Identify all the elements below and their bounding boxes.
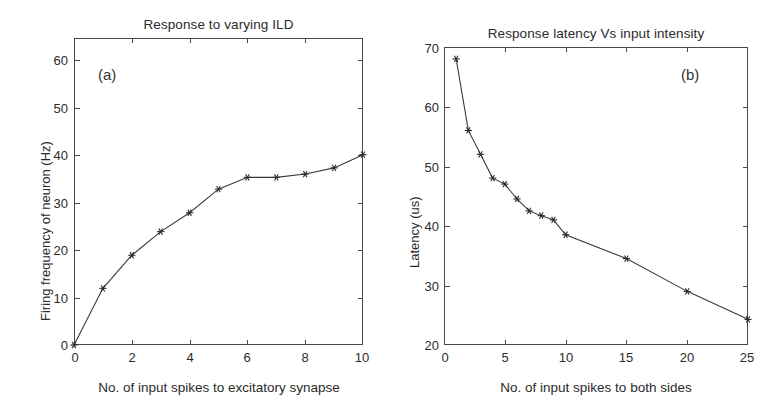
data-point-marker (477, 151, 484, 157)
panel-b-ytick-20: 20 (411, 338, 439, 353)
panel-b-data-series (444, 47, 748, 345)
panel-a: Response to varying ILD (a) Firing frequ… (0, 0, 400, 412)
panel-a-ytick-10: 10 (40, 291, 68, 306)
panel-a-ytick-60: 60 (40, 53, 68, 68)
data-point-marker (744, 316, 751, 322)
data-point-marker (489, 175, 496, 181)
panel-a-xtick-2: 2 (128, 350, 135, 365)
data-point-marker (70, 342, 77, 348)
data-point-marker (501, 181, 508, 187)
panel-b: Response latency Vs input intensity (b) … (381, 0, 781, 412)
data-point-marker (244, 174, 251, 180)
panel-b-ytick-70: 70 (411, 41, 439, 56)
panel-a-title: Response to varying ILD (74, 17, 363, 32)
data-point-marker (550, 217, 557, 223)
panel-b-ytick-50: 50 (411, 160, 439, 175)
panel-a-xtick-8: 8 (301, 350, 308, 365)
data-point-marker (359, 152, 366, 158)
panel-a-ytick-40: 40 (40, 148, 68, 163)
series-line (74, 155, 363, 345)
panel-b-ytick-60: 60 (411, 100, 439, 115)
panel-a-ytick-50: 50 (40, 101, 68, 116)
panel-b-xtick-0: 0 (441, 350, 448, 365)
panel-a-xtick-4: 4 (186, 350, 193, 365)
panel-b-xtick-15: 15 (619, 350, 633, 365)
data-point-marker (684, 288, 691, 294)
panel-a-data-series (74, 38, 363, 345)
panel-b-xtick-25: 25 (740, 350, 754, 365)
panel-b-x-axis-label: No. of input spikes to both sides (426, 380, 766, 395)
panel-b-xtick-10: 10 (559, 350, 573, 365)
panel-b-xtick-20: 20 (680, 350, 694, 365)
data-point-marker (331, 165, 338, 171)
panel-a-ytick-20: 20 (40, 243, 68, 258)
panel-a-xtick-10: 10 (355, 350, 369, 365)
data-point-marker (623, 255, 630, 261)
panel-b-title: Response latency Vs input intensity (444, 26, 748, 41)
series-line (456, 59, 748, 319)
panel-a-xtick-6: 6 (243, 350, 250, 365)
data-point-marker (538, 213, 545, 219)
panel-a-ytick-0: 0 (40, 338, 68, 353)
panel-a-xtick-0: 0 (71, 350, 78, 365)
panel-a-x-axis-label: No. of input spikes to excitatory synaps… (34, 380, 404, 395)
data-point-marker (302, 171, 309, 177)
panel-b-ytick-30: 30 (411, 279, 439, 294)
data-point-marker (562, 232, 569, 238)
data-point-marker (273, 174, 280, 180)
panel-b-xtick-5: 5 (501, 350, 508, 365)
figure-container: Response to varying ILD (a) Firing frequ… (0, 0, 781, 412)
panel-b-ytick-40: 40 (411, 219, 439, 234)
panel-a-ytick-30: 30 (40, 196, 68, 211)
